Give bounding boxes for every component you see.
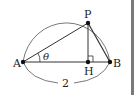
label-theta: θ (43, 51, 49, 62)
segment-AP (23, 23, 88, 62)
point-P (86, 21, 90, 25)
point-H (86, 60, 90, 64)
geometry-figure: A B P H θ 2 (0, 0, 135, 95)
point-A (21, 60, 25, 64)
label-length: 2 (62, 77, 69, 90)
angle-arc (38, 53, 40, 62)
point-B (108, 60, 112, 64)
dimension-arc-left (23, 62, 58, 83)
label-A: A (12, 57, 22, 70)
divider-bar (131, 0, 134, 95)
label-P: P (84, 8, 92, 21)
label-H: H (84, 65, 94, 78)
circumcircle-arc (23, 23, 110, 62)
label-B: B (113, 57, 121, 70)
